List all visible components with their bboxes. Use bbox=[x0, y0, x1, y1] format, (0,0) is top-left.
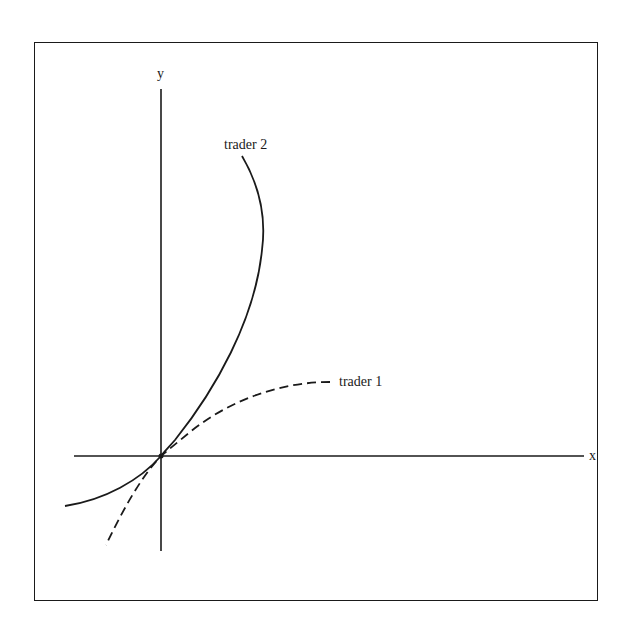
diagram-canvas bbox=[0, 0, 625, 637]
trader-2-label: trader 2 bbox=[224, 138, 267, 152]
trader-1-label: trader 1 bbox=[339, 375, 382, 389]
y-axis-label: y bbox=[157, 67, 164, 81]
trader-1-curve bbox=[106, 382, 330, 545]
origin-point bbox=[159, 454, 164, 459]
x-axis-label: x bbox=[589, 449, 596, 463]
